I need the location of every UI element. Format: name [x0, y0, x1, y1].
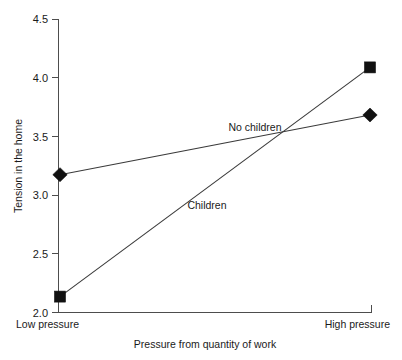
y-tick-label-3-5: 3.5 — [33, 131, 48, 143]
data-point-children-low — [55, 291, 66, 302]
series-annotation-no-children: No children — [228, 121, 281, 133]
series-line-children — [60, 67, 370, 296]
x-category-label-high-pressure: High pressure — [325, 318, 391, 330]
y-tick-label-2-5: 2.5 — [33, 248, 48, 260]
y-tick-label-3-0: 3.0 — [33, 189, 48, 201]
x-category-label-low-pressure: Low pressure — [16, 318, 79, 330]
data-point-children-high — [365, 62, 376, 73]
x-axis-title: Pressure from quantity of work — [134, 338, 277, 350]
y-axis-title: Tension in the home — [12, 119, 24, 213]
y-tick-label-2-0: 2.0 — [33, 307, 48, 319]
data-point-no-children-low — [53, 168, 67, 182]
chart-canvas: 2.0 2.5 3.0 3.5 4.0 4.5 Tension in the h… — [0, 0, 402, 360]
series-annotation-children: Children — [187, 199, 226, 211]
y-tick-label-4-5: 4.5 — [33, 13, 48, 25]
series-line-no-children — [60, 115, 370, 175]
interaction-plot-figure: 2.0 2.5 3.0 3.5 4.0 4.5 Tension in the h… — [0, 0, 402, 360]
y-tick-label-4-0: 4.0 — [33, 72, 48, 84]
data-point-no-children-high — [363, 108, 377, 122]
